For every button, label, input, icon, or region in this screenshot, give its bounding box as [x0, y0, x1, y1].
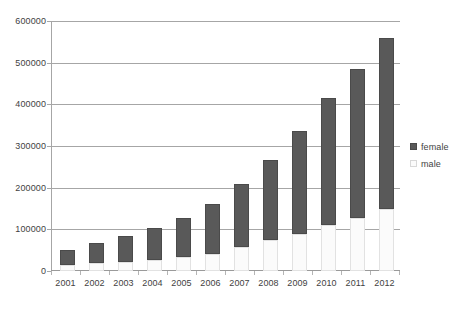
bar-segment-male[interactable]	[263, 240, 278, 271]
legend-item-male[interactable]: male	[410, 155, 458, 172]
bar-segment-female[interactable]	[263, 160, 278, 240]
x-tick-label-2008: 2008	[254, 278, 283, 288]
y-tick-label: 100000	[0, 224, 46, 234]
x-tick-label-2002: 2002	[80, 278, 109, 288]
y-tick-text: 500000	[15, 58, 46, 68]
y-tick-label: 200000	[0, 183, 46, 193]
bar-group-2007[interactable]	[234, 184, 249, 272]
y-tick-text: 0	[41, 266, 46, 276]
bar-segment-female[interactable]	[379, 38, 394, 209]
y-tick-label: 500000	[0, 58, 46, 68]
x-tick-text: 2005	[171, 278, 191, 288]
bar-group-2009[interactable]	[292, 131, 307, 271]
gridline-300000	[51, 146, 400, 147]
x-tick-label-2001: 2001	[51, 278, 80, 288]
bar-group-2001[interactable]	[60, 250, 75, 271]
y-tick-label: 0	[0, 266, 46, 276]
x-tick-mark	[225, 271, 226, 275]
x-tick-text: 2011	[346, 278, 366, 288]
x-tick-label-2003: 2003	[109, 278, 138, 288]
y-tick-text: 200000	[15, 183, 46, 193]
y-tick-text: 300000	[15, 141, 46, 151]
x-tick-mark	[196, 271, 197, 275]
plot-area	[51, 21, 400, 271]
x-tick-label-2007: 2007	[225, 278, 254, 288]
x-tick-mark	[80, 271, 81, 275]
bar-segment-male[interactable]	[176, 257, 191, 271]
bar-segment-male[interactable]	[205, 254, 220, 272]
legend-item-female[interactable]: female	[410, 138, 458, 155]
x-tick-text: 2006	[200, 278, 220, 288]
bar-segment-male[interactable]	[379, 209, 394, 271]
bar-segment-male[interactable]	[147, 260, 162, 271]
x-tick-mark	[283, 271, 284, 275]
x-tick-mark	[51, 271, 52, 275]
x-tick-text: 2009	[287, 278, 307, 288]
x-tick-text: 2001	[55, 278, 75, 288]
gridline-200000	[51, 188, 400, 189]
bar-group-2011[interactable]	[350, 69, 365, 271]
bar-segment-female[interactable]	[89, 243, 104, 263]
x-tick-mark	[341, 271, 342, 275]
bar-group-2012[interactable]	[379, 38, 394, 271]
chart-figure: 600000 500000 400000 300000 200000 10000…	[0, 0, 460, 311]
y-tick-label: 400000	[0, 99, 46, 109]
gridline-600000	[51, 21, 400, 22]
gridline-400000	[51, 104, 400, 105]
x-tick-text: 2012	[374, 278, 394, 288]
bar-segment-male[interactable]	[118, 262, 133, 271]
bar-segment-female[interactable]	[118, 236, 133, 262]
x-tick-label-2010: 2010	[312, 278, 341, 288]
x-tick-mark	[138, 271, 139, 275]
x-tick-mark	[254, 271, 255, 275]
bar-segment-female[interactable]	[321, 98, 336, 225]
x-tick-mark	[399, 271, 400, 275]
bar-group-2010[interactable]	[321, 98, 336, 271]
bar-group-2006[interactable]	[205, 204, 220, 271]
legend-swatch-icon	[410, 160, 417, 167]
gridline-100000	[51, 229, 400, 230]
bar-group-2004[interactable]	[147, 228, 162, 271]
x-tick-label-2009: 2009	[283, 278, 312, 288]
x-tick-mark	[109, 271, 110, 275]
legend-label: male	[421, 159, 441, 169]
bar-segment-male[interactable]	[350, 218, 365, 271]
x-tick-label-2011: 2011	[341, 278, 370, 288]
bar-group-2008[interactable]	[263, 160, 278, 271]
x-tick-label-2006: 2006	[196, 278, 225, 288]
bar-segment-female[interactable]	[147, 228, 162, 260]
x-tick-text: 2007	[229, 278, 249, 288]
y-tick-text: 600000	[15, 16, 46, 26]
bar-segment-male[interactable]	[89, 263, 104, 271]
y-tick-label: 600000	[0, 16, 46, 26]
x-tick-text: 2003	[113, 278, 133, 288]
x-tick-text: 2004	[142, 278, 162, 288]
legend-swatch-icon	[410, 143, 417, 150]
bar-segment-male[interactable]	[292, 234, 307, 272]
bar-segment-female[interactable]	[350, 69, 365, 218]
legend-label: female	[421, 142, 449, 152]
bar-segment-female[interactable]	[205, 204, 220, 253]
bar-segment-female[interactable]	[60, 250, 75, 265]
bar-segment-male[interactable]	[60, 265, 75, 271]
gridline-500000	[51, 63, 400, 64]
x-tick-mark	[167, 271, 168, 275]
bar-group-2002[interactable]	[89, 243, 104, 271]
bar-group-2003[interactable]	[118, 236, 133, 271]
y-tick-label: 300000	[0, 141, 46, 151]
x-tick-label-2012: 2012	[370, 278, 399, 288]
x-tick-label-2005: 2005	[167, 278, 196, 288]
y-tick-text: 100000	[15, 224, 46, 234]
y-tick-text: 400000	[15, 99, 46, 109]
x-tick-mark	[370, 271, 371, 275]
chart-legend: female male	[410, 138, 458, 172]
bar-segment-male[interactable]	[321, 225, 336, 271]
bar-segment-male[interactable]	[234, 247, 249, 271]
x-tick-text: 2002	[84, 278, 104, 288]
bar-segment-female[interactable]	[176, 218, 191, 258]
bar-group-2005[interactable]	[176, 218, 191, 271]
bar-segment-female[interactable]	[292, 131, 307, 234]
bar-segment-female[interactable]	[234, 184, 249, 247]
x-tick-text: 2010	[316, 278, 336, 288]
x-tick-text: 2008	[258, 278, 278, 288]
